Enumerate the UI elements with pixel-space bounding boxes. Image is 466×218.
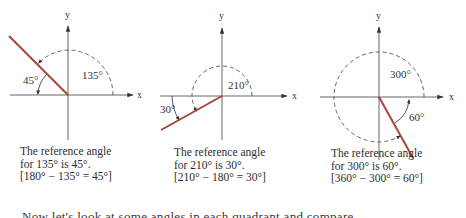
caption-210: The reference angle for 210° is 30°. [21… <box>174 146 266 184</box>
panel-135: x y 135° 45° <box>9 9 142 140</box>
caption-line: The reference angle <box>20 145 112 158</box>
reference-arc-45 <box>38 74 47 94</box>
reference-angle-figure: x y 135° 45° x y 210° 30° x y 300° 60° <box>0 0 466 218</box>
reference-angle-label: 30° <box>160 103 175 115</box>
caption-line: for 210° is 30°. <box>174 159 266 172</box>
caption-line: [210° − 180° = 30°] <box>174 171 266 184</box>
x-axis-label: x <box>137 89 142 100</box>
caption-line: The reference angle <box>174 146 266 159</box>
y-axis-label: y <box>376 10 381 21</box>
caption-line: [180° − 135° = 45°] <box>20 170 112 183</box>
caption-line: [360° − 300° = 60°] <box>331 172 423 185</box>
caption-135: The reference angle for 135° is 45°. [18… <box>20 145 112 183</box>
y-axis-label: y <box>219 10 224 21</box>
reference-angle-label: 60° <box>409 111 424 123</box>
caption-line: for 300° is 60°. <box>331 160 423 173</box>
y-axis-label: y <box>65 9 70 20</box>
terminal-side <box>9 36 68 95</box>
angle-label: 135° <box>82 69 103 81</box>
caption-300: The reference angle for 300° is 60°. [36… <box>331 147 423 185</box>
reference-arc-60 <box>395 100 409 123</box>
body-text-cut-line: Now let's look at some angles in each qu… <box>22 209 354 218</box>
angle-label: 300° <box>390 68 411 80</box>
x-axis-label: x <box>449 91 454 102</box>
panel-300: x y 300° 60° <box>320 10 454 160</box>
caption-line: The reference angle <box>331 147 423 160</box>
x-axis-label: x <box>292 90 297 101</box>
caption-line: for 135° is 45°. <box>20 158 112 171</box>
reference-angle-label: 45° <box>23 74 38 86</box>
angle-label: 210° <box>228 79 249 91</box>
panel-210: x y 210° 30° <box>160 10 297 140</box>
